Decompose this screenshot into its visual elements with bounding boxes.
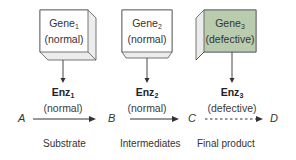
enzyme-state: (defective) (197, 102, 267, 114)
enzyme-name: Enz (52, 86, 71, 98)
gene-name: Gene (215, 17, 241, 29)
enzyme-name: Enz (221, 86, 240, 98)
category-intermediates: Intermediates (120, 138, 181, 149)
gene-1-label: Gene1 (normal) (40, 17, 88, 46)
enzyme-1-label: Enz1 (normal) (33, 86, 93, 114)
enzyme-name: Enz (136, 86, 155, 98)
enzyme-state: (normal) (33, 102, 93, 114)
gene-subscript: 1 (75, 23, 79, 30)
gene-3-label: Gene3 (defective) (204, 17, 256, 46)
category-final-product: Final product (197, 138, 255, 149)
gene-state: (normal) (122, 33, 172, 46)
metabolite-a: A (18, 112, 25, 124)
metabolite-d: D (270, 112, 278, 124)
enzyme-2-label: Enz2 (normal) (117, 86, 177, 114)
gene-name: Gene (132, 17, 158, 29)
enzyme-subscript: 3 (239, 92, 243, 99)
gene-state: (normal) (40, 33, 88, 46)
gene-subscript: 2 (158, 23, 162, 30)
enzyme-state: (normal) (117, 102, 177, 114)
reaction-arrows (33, 116, 263, 122)
gene-state: (defective) (204, 33, 256, 46)
metabolite-c: C (188, 112, 196, 124)
enzyme-subscript: 2 (154, 92, 158, 99)
enzyme-subscript: 1 (70, 92, 74, 99)
gene-2-label: Gene2 (normal) (122, 17, 172, 46)
metabolite-b: B (108, 112, 115, 124)
category-substrate: Substrate (43, 138, 86, 149)
gene-subscript: 3 (241, 23, 245, 30)
gene-name: Gene (49, 17, 75, 29)
enzyme-3-label: Enz3 (defective) (197, 86, 267, 114)
